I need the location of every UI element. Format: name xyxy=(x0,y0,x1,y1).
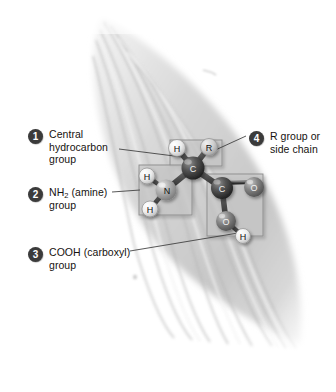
callout-badge-3: 3 xyxy=(28,247,43,262)
callout-badge-2: 2 xyxy=(28,187,43,202)
atom-label-nitrogen: N xyxy=(164,186,171,196)
callout-badge-1: 1 xyxy=(28,129,43,144)
atom-label-carbon-central: C xyxy=(190,164,197,174)
callout-amine-group: 2 NH2 (amine) group xyxy=(28,186,107,211)
callout-label-2-subscript: 2 xyxy=(64,191,68,200)
callout-label-2-pre: NH xyxy=(49,186,64,198)
leader-line-2 xyxy=(112,190,140,192)
callout-label-3: COOH (carboxyl) group xyxy=(49,246,130,271)
atom-label-h-amine-up: H xyxy=(144,172,151,182)
atom-label-h-hydroxyl: H xyxy=(240,232,247,242)
callout-carboxyl-group: 3 COOH (carboxyl) group xyxy=(28,246,130,271)
atom-label-h-amine-down: H xyxy=(147,205,154,215)
atom-label-oxygen-hydroxyl: O xyxy=(222,217,229,227)
atom-label-r-group: R xyxy=(206,143,213,153)
callout-r-group: 4 R group or side chain xyxy=(249,130,320,155)
atom-label-oxygen-double: O xyxy=(250,183,257,193)
amino-acid-figure: H R H H N xyxy=(0,0,336,392)
atom-label-carbon-carboxyl: C xyxy=(219,184,226,194)
callout-badge-4: 4 xyxy=(249,131,264,146)
callout-label-4: R group or side chain xyxy=(270,130,320,155)
atom-label-h-top: H xyxy=(174,144,181,154)
callout-central-hydrocarbon: 1 Central hydrocarbon group xyxy=(28,128,108,166)
callout-label-1: Central hydrocarbon group xyxy=(49,128,108,166)
callout-label-2: NH2 (amine) group xyxy=(49,186,107,211)
leader-line-3 xyxy=(130,232,244,251)
